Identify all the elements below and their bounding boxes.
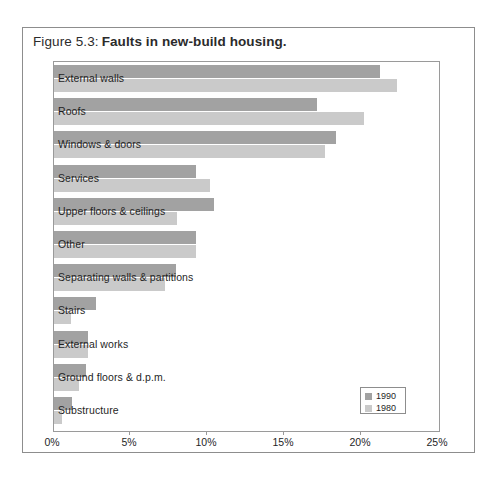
x-axis-tick-label: 20% [349,436,370,448]
x-axis-tick-label: 10% [195,436,216,448]
bar-category-label: Windows & doors [58,138,141,151]
legend-label: 1980 [376,403,396,413]
bar-row: Services [54,165,439,197]
x-axis-tick-label: 25% [426,436,447,448]
chart-plot-frame: External wallsRoofsWindows & doorsServic… [53,61,440,432]
bar-row: Separating walls & partitions [54,264,439,296]
bar-category-label: Roofs [58,105,86,118]
figure-number: Figure 5.3: [33,34,99,49]
x-axis-tick [360,431,361,435]
x-axis-tick [283,431,284,435]
bar-category-label: Services [58,172,99,185]
chart-legend: 19901980 [360,387,406,414]
figure-box: Figure 5.3:Faults in new-build housing. … [22,27,475,453]
x-axis-tick [129,431,130,435]
bar-category-label: Other [58,238,85,251]
bar-row: Stairs [54,297,439,329]
x-axis-tick-label: 0% [44,436,59,448]
x-axis-tick-label: 5% [121,436,136,448]
bar-row: Windows & doors [54,131,439,163]
bar-1980 [54,112,364,125]
legend-label: 1990 [376,391,396,401]
bar-row: Upper floors & ceilings [54,198,439,230]
figure-caption: Figure 5.3:Faults in new-build housing. [33,34,287,49]
bar-category-label: Ground floors & d.p.m. [58,371,166,384]
bar-row: External works [54,331,439,363]
bar-1990 [54,98,317,111]
x-axis-tick [206,431,207,435]
bar-row: External walls [54,65,439,97]
bar-row: Other [54,231,439,263]
x-axis: 0%5%10%15%20%25% [52,431,438,453]
bar-category-label: External works [58,338,128,351]
legend-item: 1980 [365,403,402,413]
bar-category-label: Separating walls & partitions [58,271,193,284]
bar-category-label: Substructure [58,404,119,417]
bar-row: Roofs [54,98,439,130]
chart-plot-area: External wallsRoofsWindows & doorsServic… [54,62,439,431]
legend-item: 1990 [365,391,402,401]
legend-swatch-icon [365,393,372,400]
bar-category-label: Stairs [58,304,85,317]
x-axis-tick-label: 15% [272,436,293,448]
legend-swatch-icon [365,405,372,412]
bar-category-label: Upper floors & ceilings [58,205,165,218]
bar-category-label: External walls [58,72,124,85]
figure-title: Faults in new-build housing. [102,34,287,49]
